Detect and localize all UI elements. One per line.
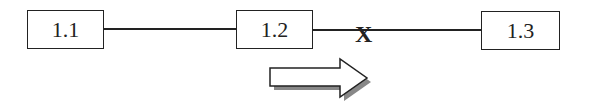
right-arrow-icon xyxy=(0,0,591,109)
